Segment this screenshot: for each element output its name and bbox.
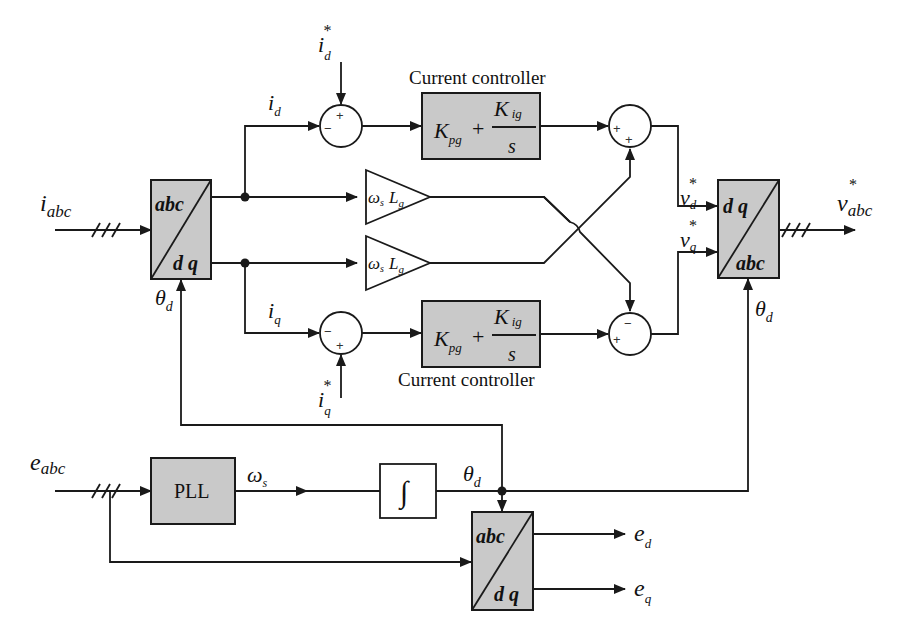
omega-s-label: ωs — [247, 462, 268, 490]
pll-block: PLL — [151, 458, 235, 524]
ed-label: ed — [634, 520, 652, 551]
svg-text:+: + — [472, 324, 484, 349]
svg-text:s: s — [508, 343, 516, 365]
e-abc-label: eabc — [30, 449, 66, 478]
svg-text:−: − — [324, 121, 332, 136]
gain-omega-lg-top: ωsLg — [366, 170, 430, 224]
theta-d-label-right: θd — [755, 296, 774, 325]
theta-d-label-left: θd — [155, 285, 174, 314]
integrator-block: ∫ — [380, 464, 436, 518]
svg-text:abc: abc — [155, 193, 184, 215]
svg-text:d q: d q — [723, 195, 748, 218]
svg-text:d q: d q — [173, 252, 198, 275]
svg-text:∫: ∫ — [398, 475, 410, 511]
svg-text:abc: abc — [736, 252, 765, 274]
iq-ref-label: iq* — [318, 377, 331, 418]
svg-text:+: + — [336, 338, 344, 353]
svg-text:d q: d q — [494, 583, 519, 606]
i-abc-label: iabc — [40, 190, 72, 221]
sum-q-output: − + — [609, 313, 651, 355]
abc-dq-grid-transform-block: abc d q — [472, 512, 533, 610]
controller-d-caption: Current controller — [409, 67, 546, 88]
v-abc-ref-label: vabc* — [837, 176, 873, 220]
sum-q-error: − + — [320, 312, 362, 354]
current-controller-d: Kpg + Kig s — [422, 93, 540, 159]
v-abc-output-line — [779, 223, 855, 237]
id-ref-label: id* — [318, 22, 331, 63]
id-label: id — [268, 90, 281, 119]
theta-d-label-bottom: θd — [463, 461, 482, 490]
i-abc-input-line — [55, 223, 151, 237]
current-controller-q: Kpg + Kig s — [422, 301, 540, 367]
dq-abc-transform-block: d q abc — [718, 180, 779, 278]
svg-text:PLL: PLL — [174, 480, 210, 502]
abc-dq-transform-block: abc d q — [151, 180, 211, 279]
vq-ref-label: vq* — [680, 217, 697, 254]
svg-text:−: − — [624, 316, 632, 331]
svg-text:+: + — [613, 121, 621, 136]
svg-text:s: s — [508, 135, 516, 157]
svg-text:+: + — [472, 116, 484, 141]
control-diagram: iabc abc d q θd id iq + − id* Current co… — [0, 0, 907, 642]
vq-ref-line — [651, 252, 717, 334]
sum-d-error: + − — [320, 105, 362, 147]
svg-text:−: − — [324, 324, 332, 339]
eq-label: eq — [634, 575, 652, 606]
sum-d-output: + + — [609, 105, 651, 147]
svg-text:+: + — [613, 332, 621, 347]
svg-text:+: + — [625, 132, 633, 147]
controller-q-caption: Current controller — [398, 369, 535, 390]
vd-ref-label: vd* — [680, 175, 697, 212]
svg-text:+: + — [336, 108, 344, 123]
svg-text:abc: abc — [476, 525, 505, 547]
iq-label: iq — [268, 298, 281, 327]
gain-omega-lg-bottom: ωsLg — [366, 236, 430, 290]
